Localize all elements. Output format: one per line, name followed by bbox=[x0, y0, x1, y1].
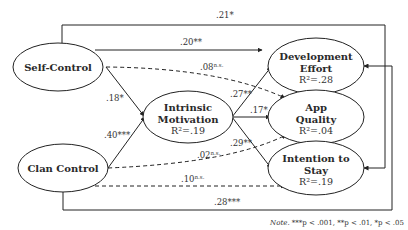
coef-cc-its-value: .10 bbox=[181, 174, 195, 184]
node-de-line1: Development bbox=[279, 51, 353, 62]
coef-sc-outer: .21* bbox=[216, 10, 235, 20]
node-self-control-label: Self-Control bbox=[24, 62, 92, 73]
node-intrinsic-motivation: Intrinsic Motivation R²=.19 bbox=[143, 91, 233, 143]
coef-sc-im: .18* bbox=[106, 93, 125, 103]
node-im-line1: Intrinsic bbox=[164, 102, 212, 113]
node-aq-line1: App bbox=[304, 102, 327, 113]
note: Note. ***p < .001, **p < .01, *p < .05 bbox=[269, 219, 404, 227]
coef-cc-its: .10n.s. bbox=[181, 174, 205, 184]
coef-cc-aq-sup: n.s. bbox=[211, 150, 221, 156]
coef-cc-aq: .02n.s. bbox=[197, 150, 221, 160]
path-cc-im bbox=[108, 117, 145, 168]
node-aq-line2: Quality bbox=[296, 114, 338, 125]
path-diagram: Self-Control Clan Control Intrinsic Moti… bbox=[0, 0, 408, 230]
coef-im-de: .27** bbox=[230, 89, 253, 99]
node-im-line2: Motivation bbox=[158, 114, 220, 125]
node-its-line2: Stay bbox=[304, 165, 329, 176]
note-text: ***p < .001, **p < .01, *p < .05 bbox=[290, 219, 404, 227]
coef-im-its: .29** bbox=[230, 138, 253, 148]
coef-sc-aq: .08n.s. bbox=[200, 62, 224, 72]
coef-cc-aq-value: .02 bbox=[197, 150, 211, 160]
node-development-effort: Development Effort R²=.28 bbox=[268, 38, 364, 94]
node-its-r2: R²=.19 bbox=[299, 176, 333, 187]
path-sc-im bbox=[106, 67, 144, 116]
note-label: Note. bbox=[269, 219, 290, 227]
node-de-line2: Effort bbox=[300, 63, 333, 74]
node-its-line1: Intention to bbox=[282, 153, 350, 164]
node-self-control: Self-Control bbox=[13, 43, 103, 91]
coef-cc-its-sup: n.s. bbox=[195, 174, 205, 180]
node-de-r2: R²=.28 bbox=[299, 74, 333, 85]
coef-sc-aq-sup: n.s. bbox=[214, 62, 224, 68]
coef-cc-outer: .28*** bbox=[214, 197, 241, 207]
node-intention-to-stay: Intention to Stay R²=.19 bbox=[268, 141, 364, 195]
coef-cc-im: .40*** bbox=[104, 130, 131, 140]
coef-sc-de: .20** bbox=[180, 37, 203, 47]
node-aq-r2: R²=.04 bbox=[299, 125, 333, 136]
node-clan-control: Clan Control bbox=[18, 144, 108, 192]
node-clan-control-label: Clan Control bbox=[27, 163, 98, 174]
node-app-quality: App Quality R²=.04 bbox=[268, 90, 364, 144]
node-im-r2: R²=.19 bbox=[171, 125, 205, 136]
coef-im-aq: .17* bbox=[250, 105, 269, 115]
coef-sc-aq-value: .08 bbox=[200, 62, 214, 72]
